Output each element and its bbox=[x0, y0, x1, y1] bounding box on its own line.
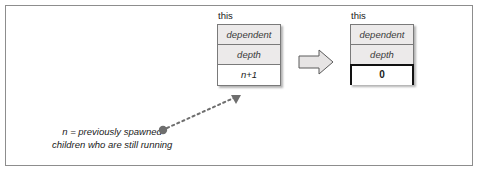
figure-root: this dependent depth n+1 this dependent … bbox=[0, 0, 480, 174]
caption-line-1: n = previously spawned bbox=[52, 126, 172, 139]
left-struct-box: dependent depth n+1 bbox=[217, 24, 281, 86]
left-struct-field-dependent: dependent bbox=[218, 25, 280, 45]
left-struct-field-value: n+1 bbox=[218, 65, 280, 85]
right-struct-field-depth: depth bbox=[351, 45, 413, 65]
right-struct-field-value: 0 bbox=[350, 64, 414, 85]
right-struct-label: this bbox=[351, 10, 366, 21]
right-struct-field-dependent: dependent bbox=[351, 25, 413, 45]
left-struct-field-depth: depth bbox=[218, 45, 280, 65]
right-struct-box: dependent depth 0 bbox=[350, 24, 414, 85]
caption-line-2: children who are still running bbox=[52, 139, 172, 152]
left-struct-label: this bbox=[218, 10, 233, 21]
caption-text: n = previously spawned children who are … bbox=[52, 126, 172, 151]
